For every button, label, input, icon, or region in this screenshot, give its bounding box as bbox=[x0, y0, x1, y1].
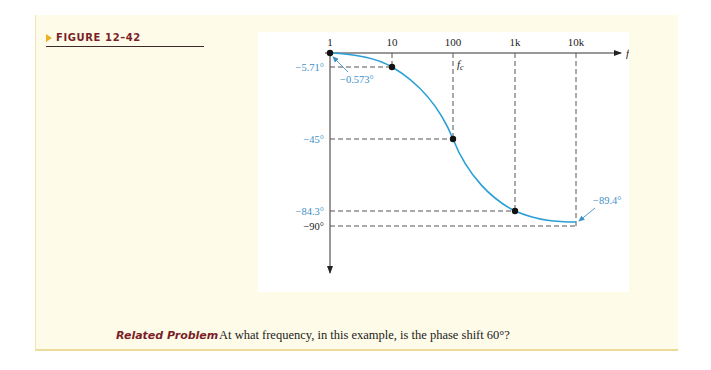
y-tick-45: −45° bbox=[303, 134, 324, 145]
annotation-0573: −0.573° bbox=[340, 74, 374, 85]
y-tick-84.3: −84.3° bbox=[296, 206, 325, 217]
point-100hz bbox=[450, 136, 456, 142]
related-problem: Related Problem At what frequency, in th… bbox=[116, 328, 510, 343]
annotation-894: −89.4° bbox=[593, 195, 622, 206]
x-tick-1k: 1k bbox=[510, 36, 522, 48]
x-tick-10: 10 bbox=[387, 36, 399, 48]
y-tick-90: −90° bbox=[303, 221, 324, 232]
x-tick-100: 100 bbox=[445, 36, 462, 48]
figure-box: FIGURE 12–42 1 10 100 1k 10k f(Hz) bbox=[35, 15, 678, 351]
phase-chart-svg: 1 10 100 1k 10k f(Hz) θ −5.71° −45 bbox=[258, 32, 629, 292]
related-problem-label: Related Problem bbox=[116, 329, 219, 342]
fc-label: fc bbox=[457, 58, 464, 72]
annotation-arrow-894 bbox=[579, 208, 595, 221]
phase-chart: 1 10 100 1k 10k f(Hz) θ −5.71° −45 bbox=[258, 32, 629, 292]
x-tick-1: 1 bbox=[327, 36, 333, 48]
annotation-arrow-0573 bbox=[333, 57, 348, 72]
figure-label-text: FIGURE 12–42 bbox=[56, 32, 141, 43]
related-problem-text: At what frequency, in this example, is t… bbox=[219, 328, 510, 343]
point-1hz bbox=[327, 50, 333, 56]
x-axis-label: f(Hz) bbox=[626, 47, 629, 60]
y-tick-5.71: −5.71° bbox=[296, 62, 325, 73]
x-tick-10k: 10k bbox=[568, 36, 585, 48]
figure-label: FIGURE 12–42 bbox=[46, 32, 204, 47]
y-axis-label: θ bbox=[327, 291, 332, 292]
figure-arrow-icon bbox=[46, 34, 52, 42]
point-10hz bbox=[389, 64, 395, 70]
point-1khz bbox=[512, 208, 518, 214]
